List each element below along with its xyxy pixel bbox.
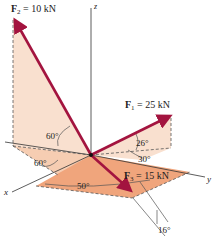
origin-point <box>89 153 93 157</box>
angle-f1-plane: 30° <box>138 154 151 164</box>
f2-label: F2 = 10 kN <box>11 3 56 16</box>
angle-f3-plane: 50° <box>77 181 90 191</box>
angle-f2-horizontal: 60° <box>34 158 47 168</box>
z-axis-label: z <box>93 2 98 11</box>
angle-f2-vertical: 60° <box>46 131 59 141</box>
f1-label: F1 = 25 kN <box>125 99 170 112</box>
angle-f3-tilt: 16° <box>158 225 171 235</box>
y-axis-label: y <box>206 174 211 184</box>
force-diagram: z y x F2 = 10 kN F1 = 25 kN F3 = 15 kN 6… <box>0 0 215 239</box>
x-axis-label: x <box>3 187 8 197</box>
angle-f1-elevation: 26° <box>136 138 149 148</box>
